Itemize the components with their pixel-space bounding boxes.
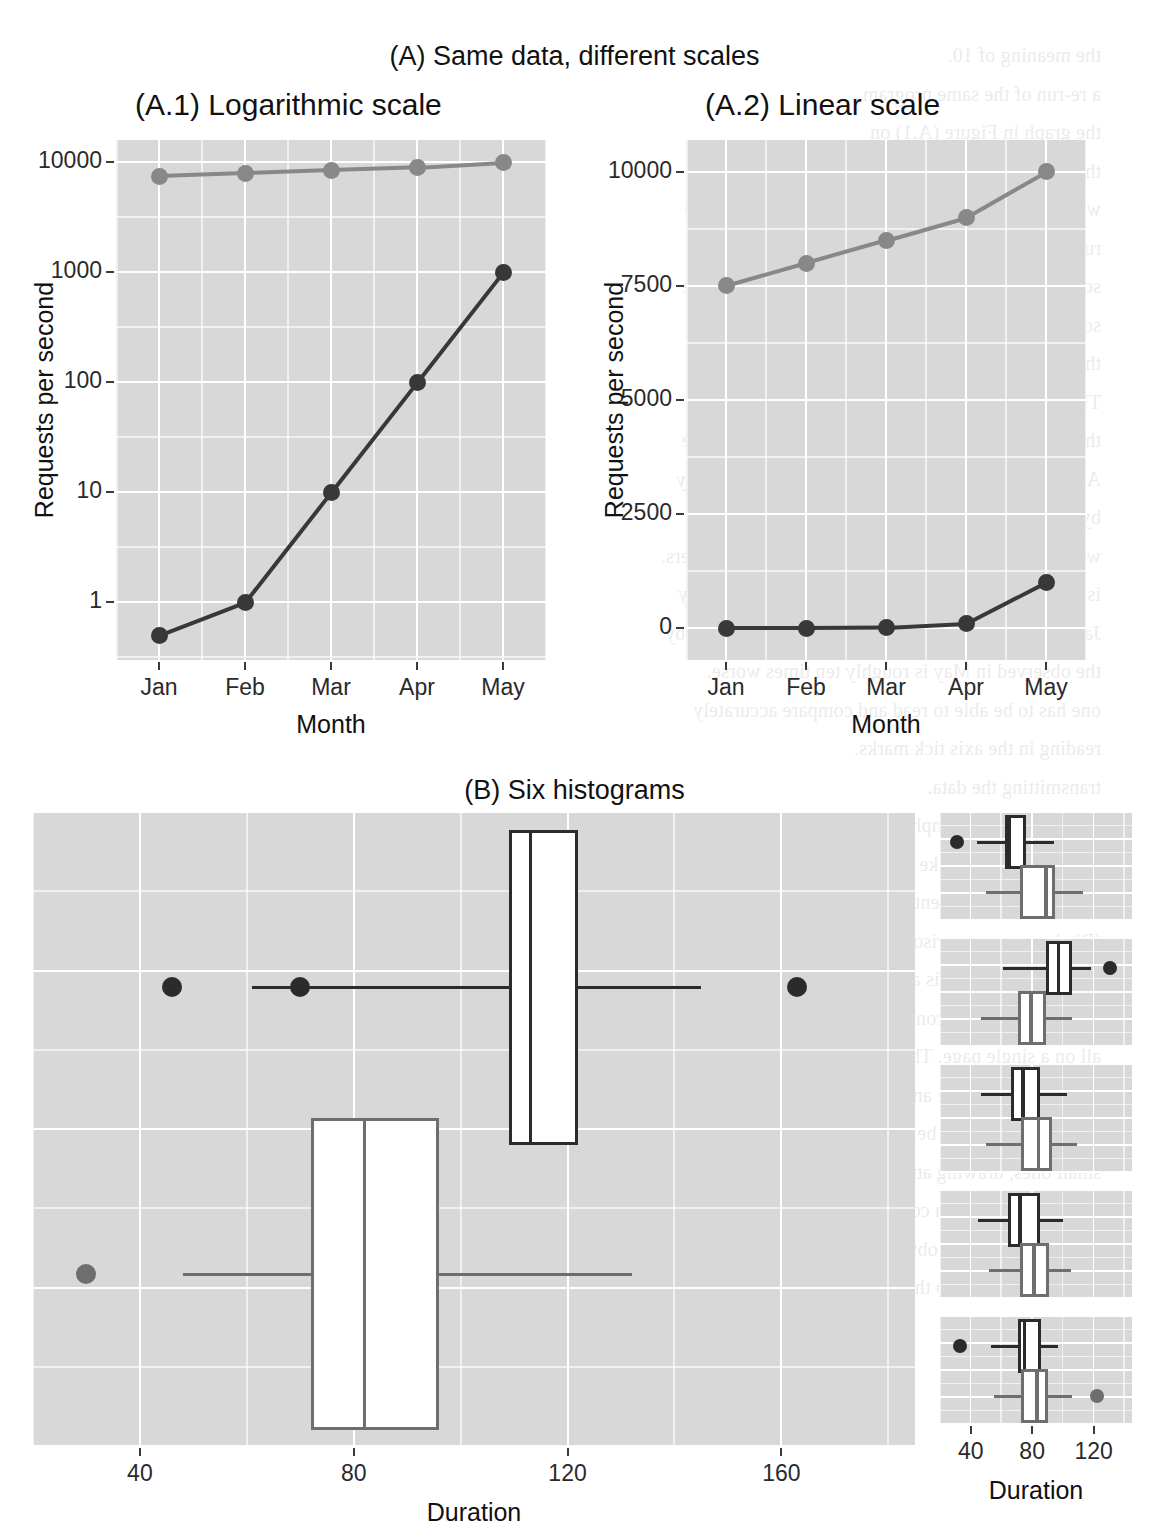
median-line-dark-box	[1008, 815, 1012, 869]
x-axis-tick-mark	[502, 662, 504, 670]
x-axis-tick-mark	[244, 662, 246, 670]
facet-panel-1	[940, 812, 1132, 920]
x-axis-tick-mark	[970, 1426, 972, 1434]
data-point-dark-series	[323, 484, 340, 501]
gridline-y-major	[940, 937, 1132, 939]
gridline-x-minor	[1085, 140, 1087, 660]
gridline-x-major	[725, 140, 727, 660]
x-axis-tick-mark	[725, 662, 727, 670]
median-line-dark-box	[1018, 1193, 1022, 1247]
panel-a1-title: (A.1) Logarithmic scale	[135, 88, 442, 122]
gridline-y-major	[940, 811, 1132, 813]
x-axis-tick-mark	[158, 662, 160, 670]
data-point-dark-series	[151, 627, 168, 644]
median-line-grey-box	[1029, 991, 1033, 1045]
data-point-dark-series	[878, 619, 895, 636]
gridline-x-major	[885, 140, 887, 660]
gridline-y-minor	[33, 890, 915, 892]
data-point-grey-series	[323, 162, 340, 179]
outlier-point-dark-box	[787, 977, 807, 997]
gridline-y-major	[33, 1287, 915, 1289]
outlier-point-grey-box	[76, 1264, 96, 1284]
x-axis-tick-mark	[567, 1448, 569, 1456]
median-line-grey-box	[1032, 1243, 1036, 1297]
gridline-y-minor	[940, 852, 1132, 854]
x-axis-tick-mark	[1031, 1426, 1033, 1434]
gridline-y-major	[940, 838, 1132, 840]
y-axis-tick-mark	[676, 399, 684, 401]
figure-root: (A) Same data, different scales (A.1) Lo…	[0, 0, 1149, 1532]
facet-panel-4	[940, 1190, 1132, 1298]
x-axis-tick-mark	[1045, 662, 1047, 670]
gridline-y-major	[33, 1445, 915, 1447]
x-axis-title: Month	[686, 710, 1086, 739]
y-axis-tick-mark	[676, 627, 684, 629]
x-axis-tick-label: May	[443, 674, 563, 701]
outlier-point-dark-box	[950, 835, 964, 849]
series-line-dark-series	[806, 626, 886, 630]
gridline-x-major	[416, 140, 418, 660]
panel-b-title: (B) Six histograms	[0, 775, 1149, 806]
whisker-dark-box	[252, 986, 701, 989]
b-large-panel	[33, 812, 915, 1446]
x-axis-tick-mark	[885, 662, 887, 670]
y-axis-tick-mark	[106, 271, 114, 273]
data-point-grey-series	[878, 232, 895, 249]
gridline-y-major	[940, 1171, 1132, 1173]
facet-panel-3	[940, 1064, 1132, 1172]
gridline-y-minor	[33, 1366, 915, 1368]
x-axis-tick-mark	[416, 662, 418, 670]
x-axis-tick-mark	[353, 1448, 355, 1456]
gridline-y-major	[940, 919, 1132, 921]
y-axis-tick-mark	[676, 285, 684, 287]
x-axis-tick-label: 160	[721, 1460, 841, 1487]
x-axis-tick-mark	[330, 662, 332, 670]
gridline-y-major	[940, 1315, 1132, 1317]
median-line-dark-box	[529, 830, 533, 1145]
x-axis-tick-mark	[805, 662, 807, 670]
median-line-grey-box	[1037, 1117, 1041, 1171]
data-point-dark-series	[798, 620, 815, 637]
box-grey-box	[311, 1118, 439, 1430]
gridline-y-minor	[940, 825, 1132, 827]
data-point-dark-series	[409, 374, 426, 391]
gridline-x-minor	[116, 140, 118, 660]
x-axis-title: Duration	[33, 1498, 915, 1527]
gridline-x-minor	[201, 140, 203, 660]
y-axis-tick-mark	[106, 491, 114, 493]
gridline-x-minor	[287, 140, 289, 660]
gridline-x-minor	[686, 140, 688, 660]
median-line-grey-box	[1035, 1369, 1039, 1423]
outlier-point-dark-box	[290, 977, 310, 997]
panel-a2-title: (A.2) Linear scale	[705, 88, 940, 122]
gridline-y-major	[33, 811, 915, 813]
data-point-grey-series	[798, 255, 815, 272]
facet-panel-2	[940, 938, 1132, 1046]
box-dark-box	[1011, 1067, 1040, 1121]
x-axis-tick-label: 120	[508, 1460, 628, 1487]
facet-panel-5	[940, 1316, 1132, 1424]
data-point-dark-series	[237, 594, 254, 611]
median-line-grey-box	[1044, 865, 1048, 919]
gridline-y-major	[940, 1045, 1132, 1047]
gridline-x-minor	[845, 140, 847, 660]
box-dark-box	[509, 830, 578, 1145]
gridline-x-major	[330, 140, 332, 660]
y-axis-tick-mark	[106, 161, 114, 163]
gridline-y-minor	[940, 978, 1132, 980]
gridline-y-major	[940, 1189, 1132, 1191]
data-point-grey-series	[958, 209, 975, 226]
box-grey-box	[1020, 865, 1055, 919]
x-axis-tick-mark	[965, 662, 967, 670]
y-axis-tick-mark	[676, 513, 684, 515]
box-dark-box	[1008, 1193, 1040, 1247]
data-point-grey-series	[718, 277, 735, 294]
gridline-x-major	[244, 140, 246, 660]
gridline-y-minor	[33, 1049, 915, 1051]
data-point-grey-series	[409, 159, 426, 176]
data-point-grey-series	[1038, 163, 1055, 180]
data-point-dark-series	[495, 264, 512, 281]
x-axis-tick-label: May	[986, 674, 1106, 701]
gridline-y-major	[33, 970, 915, 972]
outlier-point-dark-box	[162, 977, 182, 997]
